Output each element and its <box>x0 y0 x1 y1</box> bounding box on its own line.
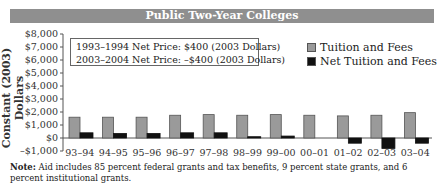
y-tick-label: $7,000 <box>25 41 58 52</box>
y-tick-label: $2,000 <box>25 106 58 117</box>
black-swatch-icon <box>307 57 316 66</box>
footnote: Note: Aid includes 85 percent federal gr… <box>10 162 430 184</box>
bar-net-tuition <box>248 137 261 138</box>
gray-swatch-icon <box>307 43 316 52</box>
legend: Tuition and Fees Net Tuition and Fees <box>307 41 437 69</box>
bar-net-tuition <box>181 133 194 138</box>
bar-tuition <box>103 117 114 138</box>
legend-item-tuition: Tuition and Fees <box>307 41 437 55</box>
legend-item-net-tuition: Net Tuition and Fees <box>307 55 437 69</box>
y-tick-label: $5,000 <box>25 67 58 78</box>
y-tick-label: $8,000 <box>25 28 58 39</box>
bar-net-tuition <box>114 133 127 138</box>
bar-tuition <box>270 115 281 138</box>
bar-tuition <box>203 115 214 138</box>
y-tick-label: –$1,000 <box>20 145 58 156</box>
bar-tuition <box>136 117 147 138</box>
bar-net-tuition <box>147 133 160 138</box>
annotation-line-2: 2003–2004 Net Price: –$400 (2003 Dollars… <box>76 53 253 66</box>
bar-net-tuition <box>348 138 361 143</box>
bar-tuition <box>371 115 382 138</box>
annotation-line-1: 1993–1994 Net Price: $400 (2003 Dollars) <box>76 40 253 53</box>
y-tick-label: $0 <box>46 132 58 143</box>
bar-tuition <box>304 115 315 138</box>
bar-net-tuition <box>80 133 93 138</box>
bar-net-tuition <box>214 133 227 138</box>
bar-tuition <box>237 115 248 138</box>
x-tick-label: 03–04 <box>395 147 435 158</box>
y-tick-label: $4,000 <box>25 80 58 91</box>
net-price-annotation-box: 1993–1994 Net Price: $400 (2003 Dollars)… <box>70 38 259 66</box>
y-tick-label: $6,000 <box>25 54 58 65</box>
y-tick-label: $1,000 <box>25 119 58 130</box>
y-tick-label: $3,000 <box>25 93 58 104</box>
bar-tuition <box>337 116 348 138</box>
bar-net-tuition <box>415 138 428 143</box>
bar-net-tuition <box>281 136 294 138</box>
bar-tuition <box>404 113 415 138</box>
bar-tuition <box>170 115 181 138</box>
bar-tuition <box>69 117 80 138</box>
